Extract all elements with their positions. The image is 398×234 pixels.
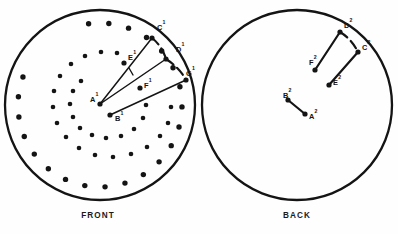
spiral-dot xyxy=(58,74,63,79)
point-dot-D1 xyxy=(163,56,168,61)
spiral-dot xyxy=(71,115,76,120)
spiral-dot xyxy=(68,102,73,107)
spiral-dot xyxy=(145,145,150,150)
spiral-dot xyxy=(166,121,171,126)
label-superscript: 2 xyxy=(350,17,353,23)
diagram-svg: A1B1C1D1E1F1G1FRONT A2B2C2D2E2F2BACK xyxy=(0,0,398,234)
spiral-dot xyxy=(55,121,60,126)
spiral-dot xyxy=(78,126,83,131)
ring-dot xyxy=(32,151,37,156)
spiral-dot xyxy=(99,50,104,55)
label-superscript: 2 xyxy=(289,87,292,93)
ring-dot xyxy=(82,183,87,188)
dashed-arc-D-G xyxy=(166,59,186,80)
point-dot-E1 xyxy=(121,60,126,65)
label-superscript: 2 xyxy=(315,108,318,114)
ring-dot xyxy=(16,94,21,99)
caption-back: BACK xyxy=(283,211,311,220)
ring-dot xyxy=(106,21,111,26)
label-superscript: 1 xyxy=(182,41,185,47)
point-dot-D2 xyxy=(337,29,342,34)
point-dot-G1 xyxy=(183,77,188,82)
ring-dot xyxy=(46,166,51,171)
label-superscript: 1 xyxy=(121,110,124,116)
spiral-dot xyxy=(141,116,146,121)
spiral-dot xyxy=(69,62,74,67)
spiral-dot xyxy=(90,133,95,138)
ring-dot xyxy=(102,184,107,189)
point-dot-F2 xyxy=(312,67,317,72)
ring-dot xyxy=(169,143,174,148)
ring-dot xyxy=(144,35,149,40)
spiral-dot xyxy=(77,146,82,151)
ring-dot xyxy=(177,84,182,89)
spiral-dot xyxy=(51,105,56,110)
label-superscript: 1 xyxy=(192,65,195,71)
point-label-F2: F2 xyxy=(309,54,317,67)
ray-A-C xyxy=(100,38,152,104)
ring-dot xyxy=(20,74,25,79)
point-label-F1: F1 xyxy=(144,77,152,90)
ring-dot xyxy=(22,134,27,139)
spiral-dot xyxy=(79,79,84,84)
label-superscript: 1 xyxy=(163,19,166,25)
ring-dot xyxy=(126,25,131,30)
label-superscript: 2 xyxy=(338,74,341,80)
ring-dot xyxy=(122,180,127,185)
spiral-dot xyxy=(132,127,137,132)
label-superscript: 1 xyxy=(149,77,152,83)
point-label-D1: D1 xyxy=(176,41,185,54)
panel-front: A1B1C1D1E1F1G1FRONT xyxy=(5,10,195,220)
ring-dot xyxy=(141,172,146,177)
point-label-A1: A1 xyxy=(90,91,99,104)
spiral-dot xyxy=(104,136,109,141)
spiral-dot xyxy=(158,134,163,139)
point-dot-A1 xyxy=(97,101,102,106)
label-superscript: 1 xyxy=(96,91,99,97)
circle-outline-back xyxy=(202,10,392,200)
spiral-dot xyxy=(64,135,69,140)
spiral-dot xyxy=(129,152,134,157)
ring-dot xyxy=(156,159,161,164)
spiral-dot xyxy=(144,103,149,108)
dashed-arc-D-C xyxy=(340,32,358,52)
label-superscript: 1 xyxy=(133,49,136,55)
ring-dot xyxy=(16,114,21,119)
point-label-B2: B2 xyxy=(283,87,292,100)
point-dot-E2 xyxy=(326,82,331,87)
segment-F-D xyxy=(315,32,340,70)
dashed-arc-C-D xyxy=(152,38,166,59)
label-superscript: 2 xyxy=(314,54,317,60)
point-dot-B1 xyxy=(107,112,112,117)
spiral-dot xyxy=(93,153,98,158)
ring-dot xyxy=(170,65,175,70)
segment-B-A xyxy=(288,100,305,114)
caption-front: FRONT xyxy=(81,211,115,220)
point-label-C1: C1 xyxy=(157,19,166,32)
spiral-dot xyxy=(71,89,76,94)
ring-dot xyxy=(86,21,91,26)
spiral-dot xyxy=(169,105,174,110)
ray-A-D xyxy=(100,59,166,104)
point-dot-C2 xyxy=(355,49,360,54)
spiral-dot xyxy=(83,54,88,59)
spiral-dot xyxy=(52,89,57,94)
tick-mark xyxy=(129,68,133,75)
point-dot-C1 xyxy=(149,35,154,40)
point-label-A2: A2 xyxy=(309,108,318,121)
label-superscript: 2 xyxy=(368,39,371,45)
panel-back: A2B2C2D2E2F2BACK xyxy=(202,10,392,220)
ring-dot xyxy=(179,104,184,109)
spiral-dot xyxy=(119,134,124,139)
ring-dot xyxy=(63,177,68,182)
ring-dot xyxy=(176,124,181,129)
figure-canvas: A1B1C1D1E1F1G1FRONT A2B2C2D2E2F2BACK xyxy=(0,0,398,234)
spiral-dot xyxy=(111,155,116,160)
point-dot-A2 xyxy=(302,111,307,116)
spiral-dot xyxy=(115,51,120,56)
point-dot-F1 xyxy=(137,85,142,90)
